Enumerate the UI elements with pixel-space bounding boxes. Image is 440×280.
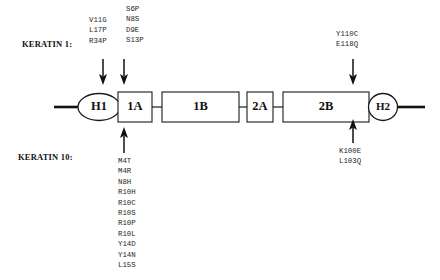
domain-2a-label: 2A [252,99,267,113]
domain-1a-label: 1A [127,99,142,113]
arrow-k1-left-down [99,59,107,85]
domain-h2-label: H2 [376,100,391,112]
domain-2b-label: 2B [319,99,334,113]
domain-1b-label: 1B [193,99,208,113]
arrow-k10-1a-up [120,127,128,153]
arrow-k1-right-down [120,59,128,85]
arrow-k1-2b-down [349,59,357,85]
domain-h1-label: H1 [91,99,107,113]
protein-domain-diagram: H1 1A 1B 2A 2B H2 [0,0,440,280]
arrow-k10-2b-up [349,119,357,143]
keratin-domain-figure: KERATIN 1: KERATIN 10: V11GL17PR34P S6PN… [0,0,440,280]
